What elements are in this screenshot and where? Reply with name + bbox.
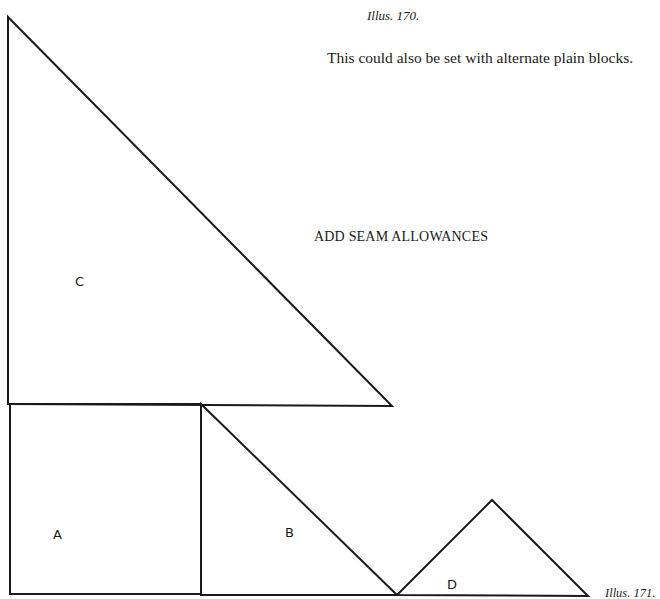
illustration-caption-171: Illus. 171.: [605, 586, 655, 599]
pattern-diagram: [0, 0, 660, 599]
pattern-piece-d: [397, 500, 588, 596]
pattern-piece-a: [10, 404, 201, 594]
piece-label-d: D: [447, 577, 457, 592]
piece-label-b: B: [285, 525, 294, 540]
pattern-piece-b: [201, 404, 397, 595]
piece-label-c: C: [75, 274, 84, 289]
pattern-piece-c: [8, 17, 392, 406]
piece-label-a: A: [53, 527, 62, 542]
